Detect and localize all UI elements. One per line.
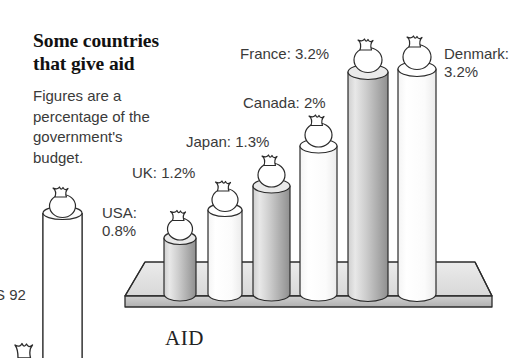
offscreen-bar-left bbox=[43, 187, 82, 358]
money-bag-icon-canada bbox=[305, 115, 332, 147]
page-title: Some countries that give aid bbox=[33, 29, 223, 75]
money-bag-icon-japan bbox=[258, 155, 285, 187]
money-bag-icon-usa bbox=[168, 211, 193, 241]
bar-uk bbox=[208, 181, 242, 301]
figure-canvas: Some countries that give aid Figures are… bbox=[0, 0, 519, 358]
bar-label-usa: USA: 0.8% bbox=[102, 204, 137, 240]
bar-canada bbox=[300, 115, 337, 301]
bar-denmark bbox=[398, 36, 436, 302]
bar-usa bbox=[164, 211, 196, 302]
figure-subtitle: Figures are a percentage of the governme… bbox=[33, 86, 183, 168]
bar-label-canada: Canada: 2% bbox=[243, 94, 326, 112]
money-bag-icon bbox=[50, 187, 76, 218]
bar-label-japan: Japan: 1.3% bbox=[186, 133, 269, 151]
base-label-aid: AID bbox=[165, 326, 204, 351]
money-bag-icon-denmark bbox=[403, 36, 431, 70]
offscreen-money-bag-icon bbox=[15, 344, 33, 358]
money-bag-icon-france bbox=[354, 39, 382, 73]
bar-japan bbox=[253, 155, 290, 301]
bar-france bbox=[348, 39, 388, 302]
cropped-side-text: S 92 bbox=[0, 286, 26, 303]
money-bag-icon-uk bbox=[212, 181, 238, 212]
bar-label-uk: UK: 1.2% bbox=[132, 164, 195, 182]
bar-label-france: France: 3.2% bbox=[240, 45, 329, 63]
bar-label-denmark: Denmark: 3.2% bbox=[444, 45, 509, 81]
